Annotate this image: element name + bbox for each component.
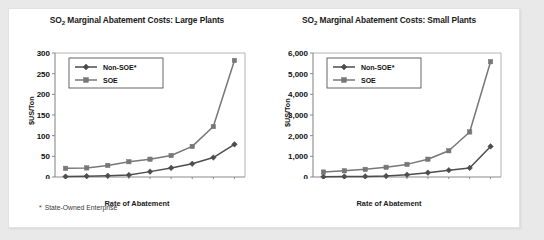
svg-text:4,000: 4,000 (288, 90, 309, 99)
svg-text:300: 300 (37, 49, 51, 58)
footnote-text: State-Owned Enterprise (45, 204, 118, 211)
chart-large-plants: SO2 Marginal Abatement Costs: Large Plan… (9, 9, 265, 229)
svg-text:250: 250 (37, 70, 51, 79)
x-axis-title-small-plants: Rate of Abatement (261, 199, 517, 208)
svg-text:Non-SOE*: Non-SOE* (361, 64, 395, 71)
chart-title-suffix: Marginal Abatement Costs: Small Plants (317, 15, 476, 25)
chart-title-subscript: 2 (314, 19, 317, 26)
svg-text:0: 0 (304, 173, 309, 179)
svg-text:SOE: SOE (361, 77, 376, 84)
chart-title-large-plants: SO2 Marginal Abatement Costs: Large Plan… (9, 15, 265, 25)
chart-title-small-plants: SO2 Marginal Abatement Costs: Small Plan… (261, 15, 517, 25)
svg-text:3,000: 3,000 (288, 111, 309, 120)
svg-text:6,000: 6,000 (288, 49, 309, 58)
svg-text:2,000: 2,000 (288, 132, 309, 141)
figure-panel: SO2 Marginal Abatement Costs: Large Plan… (8, 8, 520, 228)
chart-title-prefix: SO (302, 15, 314, 25)
svg-text:200: 200 (37, 90, 51, 99)
chart-small-plants: SO2 Marginal Abatement Costs: Small Plan… (261, 9, 517, 229)
svg-text:100: 100 (37, 132, 51, 141)
svg-text:SOE: SOE (103, 77, 118, 84)
svg-text:50: 50 (41, 152, 50, 161)
plot-area-small-plants: 01,0002,0003,0004,0005,0006,0000.10.20.3… (261, 29, 517, 179)
svg-text:150: 150 (37, 111, 51, 120)
svg-text:1,000: 1,000 (288, 152, 309, 161)
chart-title-prefix: SO (50, 15, 62, 25)
chart-title-suffix: Marginal Abatement Costs: Large Plants (65, 15, 224, 25)
svg-text:Non-SOE*: Non-SOE* (103, 64, 137, 71)
footnote-marker: * (39, 204, 42, 211)
svg-text:0: 0 (46, 173, 51, 179)
svg-text:5,000: 5,000 (288, 70, 309, 79)
chart-title-subscript: 2 (62, 19, 65, 26)
footnote: *State-Owned Enterprise (39, 204, 117, 211)
plot-area-large-plants: 0501001502002503000.10.20.30.40.50.60.70… (9, 29, 265, 179)
